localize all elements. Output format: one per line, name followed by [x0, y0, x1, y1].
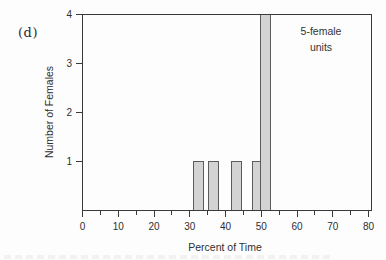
- y-axis-tick-label: 2: [66, 107, 72, 118]
- annotation-line-1: 5-female: [289, 23, 353, 39]
- x-axis-tick-label: 0: [80, 221, 86, 232]
- x-axis-title: Percent of Time: [165, 241, 285, 253]
- histogram-bar: [194, 162, 204, 211]
- y-axis-tick-label: 1: [66, 156, 72, 167]
- annotation-line-2: units: [289, 39, 353, 55]
- x-axis-tick-label: 10: [113, 221, 125, 232]
- y-axis-tick-label: 3: [66, 58, 72, 69]
- x-axis-tick-label: 40: [220, 221, 232, 232]
- cut-off-caption-remnant: [4, 255, 334, 259]
- x-axis-tick-label: 50: [256, 221, 268, 232]
- histogram-bar: [232, 162, 242, 211]
- y-axis-tick-label: 4: [66, 9, 72, 20]
- histogram-bar: [261, 15, 271, 211]
- x-axis-tick-label: 20: [148, 221, 160, 232]
- histogram-bar: [253, 162, 261, 211]
- x-axis-tick-label: 30: [184, 221, 196, 232]
- annotation-5-female-units: 5-female units: [289, 23, 353, 55]
- figure-panel-d: (d) Number of Females 123401020304050607…: [0, 0, 386, 260]
- histogram-bar: [209, 162, 219, 211]
- x-axis-tick-label: 60: [291, 221, 303, 232]
- x-axis-tick-label: 80: [363, 221, 375, 232]
- x-axis-tick-label: 70: [327, 221, 339, 232]
